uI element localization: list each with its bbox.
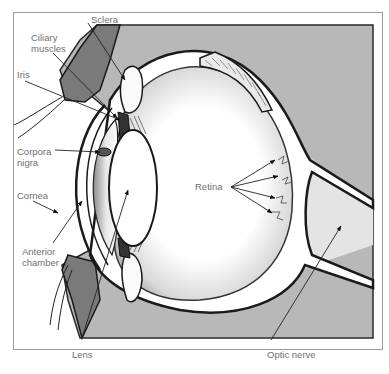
ciliary-body-upper <box>120 66 142 113</box>
ciliary-body-lower <box>122 254 142 302</box>
label-optic-nerve: Optic nerve <box>267 349 316 360</box>
label-cornea: Cornea <box>17 190 48 201</box>
label-anterior-chamber: Anterior chamber <box>22 246 59 268</box>
label-sclera: Sclera <box>91 14 118 25</box>
label-iris: Iris <box>17 69 30 80</box>
label-lens: Lens <box>72 349 93 360</box>
label-ciliary-muscles: Ciliary muscles <box>31 32 66 54</box>
label-retina: Retina <box>195 181 222 192</box>
label-corpora-nigra: Corpora nigra <box>17 146 51 168</box>
